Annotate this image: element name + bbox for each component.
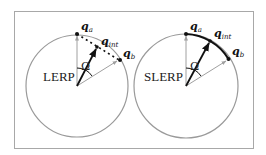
lerp-qb-label: qb	[123, 47, 136, 61]
lerp-angle-label: Ω	[81, 60, 90, 73]
lerp-point-qa	[75, 32, 79, 36]
lerp-point-qint	[95, 45, 99, 49]
slerp-angle-label: Ω	[190, 60, 199, 73]
slerp-qint-label: qint	[214, 27, 231, 41]
lerp-point-qb	[118, 58, 122, 62]
slerp-label: SLERP	[144, 69, 183, 84]
lerp-slerp-diagram: LERP Ω qa qint qb SLERP Ω qa qint	[0, 0, 266, 155]
lerp-qa-label: qa	[81, 20, 93, 34]
slerp-qa-label: qa	[190, 20, 202, 34]
slerp-qb-label: qb	[232, 45, 245, 59]
slerp-panel: SLERP Ω qa qint qb	[134, 20, 245, 138]
slerp-point-qint	[208, 39, 212, 43]
lerp-label: LERP	[43, 69, 75, 84]
lerp-qint-label: qint	[101, 35, 118, 49]
lerp-panel: LERP Ω qa qint qb	[26, 20, 136, 137]
slerp-point-qb	[227, 57, 231, 61]
slerp-point-qa	[184, 32, 188, 36]
